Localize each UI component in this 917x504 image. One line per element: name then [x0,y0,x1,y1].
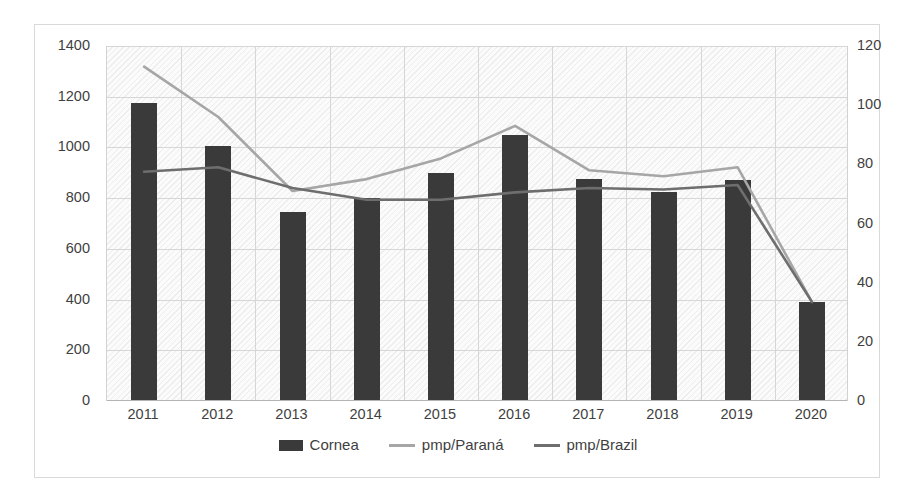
line-series-group [107,46,849,401]
left-axis-tick-label: 200 [30,342,90,356]
right-axis-tick-label: 20 [857,334,897,348]
left-axis-tick-label: 1400 [30,38,90,52]
left-axis-tick-label: 1200 [30,89,90,103]
x-axis-tick-label: 2019 [700,406,774,422]
x-axis-tick-label: 2017 [551,406,625,422]
x-axis-tick-label: 2014 [329,406,403,422]
chart-card: 0200400600800100012001400 02040608010012… [34,24,880,478]
line-pmp-brazil [144,167,812,302]
right-axis-tick-label: 0 [857,393,897,407]
x-axis-tick-label: 2016 [477,406,551,422]
right-axis-tick-label: 80 [857,156,897,170]
x-axis-tick-label: 2018 [626,406,700,422]
line-pmp-parana [144,67,812,302]
legend-label: Cornea [310,437,359,453]
plot-area [106,46,848,401]
left-axis-tick-label: 800 [30,190,90,204]
right-axis-tick-label: 40 [857,275,897,289]
legend-swatch-bar-icon [279,440,303,451]
legend-label: pmp/Brazil [567,437,638,453]
axis-baseline [107,400,847,401]
left-axis-tick-label: 600 [30,241,90,255]
chart-legend: Corneapmp/Paranápmp/Brazil [35,437,881,453]
right-axis-tick-label: 100 [857,97,897,111]
legend-item[interactable]: Cornea [279,437,359,453]
legend-label: pmp/Paraná [422,437,504,453]
x-axis-tick-label: 2013 [255,406,329,422]
x-axis-tick-label: 2015 [403,406,477,422]
left-axis-tick-label: 1000 [30,139,90,153]
legend-swatch-line-icon [534,444,560,447]
right-axis-tick-label: 120 [857,38,897,52]
x-axis-tick-label: 2020 [774,406,848,422]
x-axis-tick-label: 2011 [106,406,180,422]
legend-swatch-line-icon [389,444,415,447]
legend-item[interactable]: pmp/Paraná [389,437,504,453]
left-axis-tick-label: 0 [30,393,90,407]
legend-item[interactable]: pmp/Brazil [534,437,638,453]
right-axis-tick-label: 60 [857,216,897,230]
left-axis-tick-label: 400 [30,292,90,306]
x-axis-tick-label: 2012 [180,406,254,422]
